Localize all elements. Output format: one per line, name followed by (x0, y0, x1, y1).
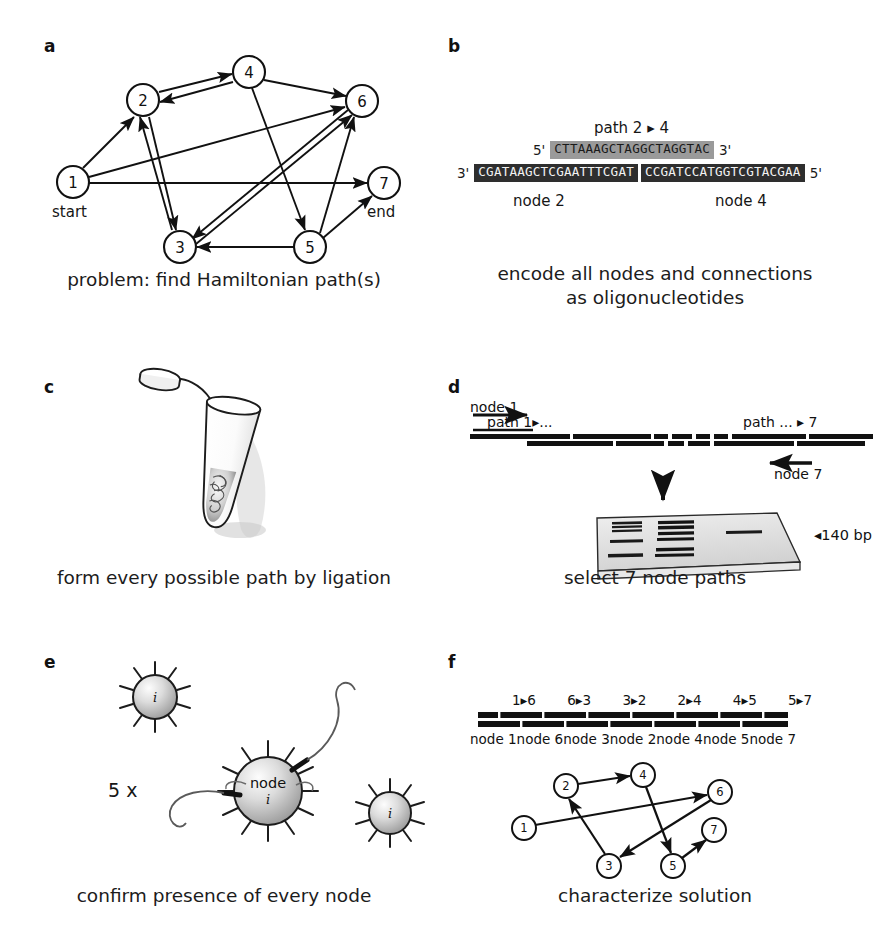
svg-text:i: i (153, 690, 157, 705)
panel-d-node1-label: node 1 (470, 399, 518, 415)
top-strand-5prime: 5' (528, 142, 550, 158)
node-2: 2 (127, 84, 159, 116)
panel-b-top-strand: 5' CTTAAAGCTAGGCTAGGTAC 3' (528, 141, 736, 159)
node-1-start-label: start (52, 203, 87, 221)
bottom-strand-node4-block: CCGATCCATGGTCGTACGAA (641, 164, 805, 182)
panel-d-path-end-label: path ... ▸ 7 (743, 414, 817, 430)
panel-b-bottom-strand: 3' CGATAAGCTCGAATTTCGAT CCGATCCATGGTCGTA… (452, 164, 827, 182)
panel-f-edges (535, 776, 711, 858)
f-node-label-4: node 4 (656, 731, 703, 747)
path-segment-3-2: 3▸2 (622, 692, 646, 708)
bead-spikes (120, 662, 190, 732)
svg-text:4: 4 (244, 64, 254, 82)
f-node-label-5: node 5 (703, 731, 750, 747)
panel-d-node7-label: node 7 (774, 466, 822, 482)
panel-a-caption: problem: find Hamiltonian path(s) (24, 268, 424, 292)
panel-b-path-label: path 2 ▸ 4 (594, 119, 669, 137)
panel-label-d: d (448, 377, 460, 397)
path-segment-5-7: 5▸7 (788, 692, 812, 708)
linker-right (292, 760, 307, 770)
panel-f-duplex (478, 712, 788, 727)
node-5: 5 (294, 231, 326, 263)
panel-d-caption: select 7 node paths (440, 566, 870, 590)
panel-f-node-labels: node 1 node 6 node 3 node 2 node 4 node … (470, 731, 796, 747)
node-1: 1 (57, 166, 89, 198)
panel-c-caption: form every possible path by ligation (24, 566, 424, 590)
bead-spikes (218, 741, 318, 841)
panel-d-gel-marker-label: ◂140 bp (814, 527, 872, 543)
duplex-top-strand (478, 712, 788, 718)
svg-text:3: 3 (175, 239, 185, 257)
bead-center: node i (170, 683, 355, 841)
svg-text:2: 2 (138, 92, 148, 110)
path-segment-6-3: 6▸3 (567, 692, 591, 708)
gel-lane-3 (726, 530, 762, 534)
svg-text:7: 7 (379, 175, 389, 193)
svg-text:i: i (266, 792, 270, 807)
panel-b-caption: encode all nodes and connections as olig… (440, 262, 870, 311)
panel-a-edges (83, 74, 372, 247)
bottom-strand-3prime: 3' (452, 165, 474, 181)
node-7: 7 (368, 167, 400, 199)
panel-b-node2-label: node 2 (513, 192, 565, 210)
tube-body (188, 401, 261, 531)
panel-f-duplex-nicks (498, 712, 764, 727)
f-node-1: 1 (512, 816, 536, 840)
panel-label-e: e (44, 652, 56, 672)
panel-e-multiplier: 5 x (108, 779, 137, 801)
gel-lane-1 (608, 521, 643, 557)
ssdna-left (170, 791, 224, 826)
f-node-label-3: node 3 (563, 731, 610, 747)
bead-spikes (356, 779, 424, 847)
top-strand-sequence: CTTAAAGCTAGGCTAGGTAC (550, 141, 714, 159)
panel-f-caption: characterize solution (440, 884, 870, 908)
path-segment-4-5: 4▸5 (733, 692, 757, 708)
node-4: 4 (233, 56, 265, 88)
svg-text:1: 1 (68, 174, 78, 192)
svg-text:i: i (388, 806, 392, 821)
ssdna-right (307, 683, 355, 760)
ssdna-right-2 (296, 782, 313, 791)
panel-a-nodes: 1 2 3 4 5 6 7 (57, 56, 400, 263)
panel-b-node4-label: node 4 (715, 192, 767, 210)
top-strand-3prime: 3' (714, 142, 736, 158)
f-node-label-2: node 2 (610, 731, 657, 747)
svg-text:2: 2 (562, 779, 569, 793)
panel-f-path-labels: 1▸6 6▸3 3▸2 2▸4 4▸5 5▸7 (512, 692, 812, 708)
f-node-4: 4 (631, 763, 655, 787)
svg-text:3: 3 (605, 859, 612, 873)
tube-cap-rim (138, 374, 180, 393)
svg-text:6: 6 (357, 93, 367, 111)
bottom-strand-5prime: 5' (805, 165, 827, 181)
panel-label-a: a (44, 36, 55, 56)
node-3: 3 (164, 231, 196, 263)
panel-label-f: f (448, 652, 455, 672)
dna-tangle (206, 474, 227, 513)
ligated-top-strand (470, 434, 873, 439)
path-segment-2-4: 2▸4 (678, 692, 702, 708)
tube-shadow (214, 522, 266, 538)
tube-contents (202, 468, 236, 524)
svg-text:1: 1 (520, 821, 527, 835)
linker-left (224, 793, 240, 795)
f-node-label-1: node 1 (470, 731, 517, 747)
bead-right: i (356, 779, 424, 847)
node-6: 6 (346, 85, 378, 117)
f-node-2: 2 (554, 774, 578, 798)
bead-top-left: i (120, 662, 190, 732)
tube-cap (139, 366, 181, 387)
f-node-label-6: node 6 (517, 731, 564, 747)
panel-label-c: c (44, 377, 54, 397)
tube-opening (206, 394, 262, 418)
f-node-7: 7 (702, 818, 726, 842)
tube-hinge (172, 378, 213, 399)
f-node-5: 5 (661, 854, 685, 878)
panel-e-caption: confirm presence of every node (24, 884, 424, 908)
svg-text:node: node (250, 775, 286, 791)
svg-text:7: 7 (710, 823, 717, 837)
path-segment-1-6: 1▸6 (512, 692, 536, 708)
ssdna-left-2 (226, 782, 246, 789)
duplex-bottom-strand (478, 721, 788, 727)
svg-text:5: 5 (669, 859, 676, 873)
svg-text:5: 5 (305, 239, 315, 257)
